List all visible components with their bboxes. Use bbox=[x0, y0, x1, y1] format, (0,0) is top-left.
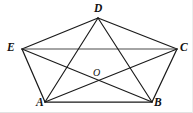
diagonal-A-C bbox=[45, 49, 177, 102]
geometry-figure: D E C A B O bbox=[0, 0, 193, 113]
vertex-label-B: B bbox=[154, 97, 162, 109]
point-label-O: O bbox=[93, 68, 100, 78]
edge-D-C bbox=[98, 18, 177, 49]
vertex-label-A: A bbox=[36, 97, 44, 109]
diagonal-D-B bbox=[98, 18, 152, 102]
vertex-label-D: D bbox=[94, 3, 102, 15]
diagonal-D-A bbox=[45, 18, 98, 102]
vertex-label-E: E bbox=[7, 42, 15, 54]
vertex-label-C: C bbox=[180, 42, 188, 54]
edge-D-E bbox=[22, 18, 98, 49]
figure-canvas bbox=[0, 0, 193, 113]
